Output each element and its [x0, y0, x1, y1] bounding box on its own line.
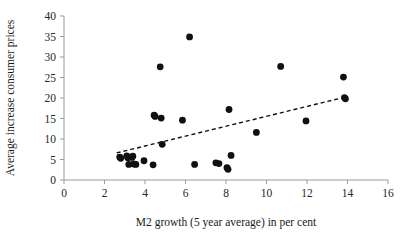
y-axis-ticks: [60, 16, 64, 180]
data-point: [216, 160, 223, 167]
x-tick-label: 14: [342, 187, 354, 199]
x-axis: 0246810121416: [61, 180, 394, 199]
data-point: [277, 63, 284, 70]
data-point: [132, 161, 139, 168]
data-point: [158, 115, 165, 122]
trend-line: [117, 97, 347, 153]
x-tick-label: 6: [183, 187, 189, 199]
data-point: [303, 118, 310, 125]
chart-canvas: 0510152025303540 0246810121416 M2 growth…: [0, 0, 404, 241]
scatter-chart: 0510152025303540 0246810121416 M2 growth…: [0, 0, 404, 241]
x-tick-label: 12: [301, 187, 313, 199]
y-tick-label: 35: [45, 31, 57, 43]
y-tick-label: 25: [45, 72, 57, 84]
y-tick-label: 15: [45, 113, 57, 125]
x-tick-label: 0: [61, 187, 67, 199]
y-axis-title: Average increase consumer prices: [4, 19, 17, 176]
y-tick-label: 0: [50, 174, 56, 186]
x-axis-title: M2 growth (5 year average) in per cent: [136, 216, 317, 229]
x-tick-label: 8: [223, 187, 229, 199]
x-tick-label: 16: [382, 187, 394, 199]
data-point: [150, 161, 157, 168]
data-point: [117, 155, 124, 162]
data-point: [179, 117, 186, 124]
data-point: [152, 113, 159, 120]
data-point: [340, 74, 347, 81]
x-tick-label: 10: [261, 187, 273, 199]
y-axis-tick-labels: 0510152025303540: [45, 10, 57, 186]
data-point: [228, 152, 235, 159]
x-axis-tick-labels: 0246810121416: [61, 187, 394, 199]
y-tick-label: 40: [45, 10, 57, 22]
y-tick-label: 20: [45, 92, 57, 104]
data-point: [159, 141, 166, 148]
data-points: [116, 34, 349, 173]
data-point: [226, 106, 233, 113]
data-point: [253, 129, 260, 136]
data-point: [129, 153, 136, 160]
data-point: [186, 34, 193, 41]
x-tick-label: 2: [102, 187, 108, 199]
y-tick-label: 10: [45, 133, 57, 145]
y-tick-label: 30: [45, 51, 57, 63]
data-point: [342, 95, 349, 102]
data-point: [157, 63, 164, 70]
data-point: [141, 157, 148, 164]
x-tick-label: 4: [142, 187, 148, 199]
x-axis-ticks: [64, 180, 388, 184]
y-axis: 0510152025303540: [45, 10, 65, 186]
data-point: [225, 166, 232, 173]
y-tick-label: 5: [50, 154, 56, 166]
data-point: [191, 161, 198, 168]
